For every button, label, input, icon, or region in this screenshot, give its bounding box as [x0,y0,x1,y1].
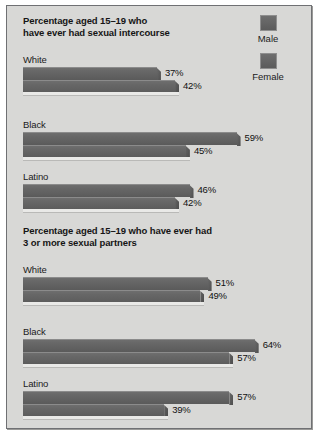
panel-title: Percentage aged 15–19 who have ever had … [23,15,238,38]
bar-value-male: 57% [237,391,255,402]
bar-pair: 64% 57% [23,339,307,370]
bar-male [23,184,190,197]
bar-value-female: 39% [172,404,190,415]
bar-male [23,67,157,80]
bar-pair: 37% 42% [23,67,307,98]
bar-value-male: 37% [165,67,183,78]
bar-female [23,80,175,93]
group-label: Black [23,119,46,130]
bar-value-male: 59% [245,132,263,143]
bar-pair: 59% 45% [23,132,307,163]
bar-male [23,277,208,290]
panel-title: Percentage aged 15–19 who have ever had … [23,225,283,248]
group-label: White [23,264,47,275]
bar-female [23,197,175,210]
bar-value-female: 49% [208,290,226,301]
bar-value-female: 57% [237,352,255,363]
bar-value-male: 51% [216,277,234,288]
bar-pair: 51% 49% [23,277,307,308]
group-label: Latino [23,378,48,389]
group-label: Black [23,326,46,337]
bar-value-female: 45% [194,145,212,156]
chart-panel-intercourse: Percentage aged 15–19 who have ever had … [7,6,311,216]
bar-female [23,404,164,417]
bar-male [23,391,229,404]
bar-value-female: 42% [183,80,201,91]
bar-female [23,352,229,365]
group-label: Latino [23,171,48,182]
bar-female [23,290,200,303]
bar-male [23,339,255,352]
bar-value-male: 64% [263,339,281,350]
bar-pair: 57% 39% [23,391,307,422]
bar-value-male: 46% [198,184,216,195]
bar-female [23,145,186,158]
bar-pair: 46% 42% [23,184,307,215]
chart-figure: Male Female Percentage aged 15–19 who ha… [6,5,312,429]
bar-male [23,132,237,145]
bar-value-female: 42% [183,197,201,208]
group-label: White [23,54,47,65]
chart-panel-partners: Percentage aged 15–19 who have ever had … [7,216,311,430]
